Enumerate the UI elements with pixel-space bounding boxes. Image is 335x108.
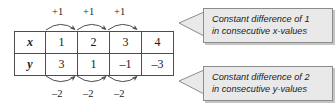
cell-y-1: 3 [46,54,78,76]
cell-x-2: 2 [78,32,110,54]
callout-top-line2: in consecutive x-values [212,25,325,37]
top-diff-label-3: +1 [114,6,125,17]
bottom-diff-label-3: –2 [114,88,125,99]
callout-bottom: Constant difference of 2 in consecutive … [203,66,333,101]
cell-x-3: 3 [110,32,142,54]
row-label-x: x [15,32,46,54]
value-table: x 1 2 3 4 y 3 1 –1 –3 [14,31,174,76]
callout-top-pointer-icon [178,10,206,40]
callout-top: Constant difference of 1 in consecutive … [203,8,333,43]
row-label-y: y [15,54,46,76]
top-diff-label-2: +1 [83,6,94,17]
cell-y-3: –1 [110,54,142,76]
bottom-arrow-3 [108,76,137,82]
callout-top-line1: Constant difference of 1 [212,13,325,25]
cell-x-4: 4 [142,32,174,54]
callout-bottom-line1: Constant difference of 2 [212,71,325,83]
table-row-x: x 1 2 3 4 [15,32,174,54]
cell-x-1: 1 [46,32,78,54]
bottom-arrow-1 [46,76,75,82]
bottom-arrow-2 [77,76,106,82]
callout-bottom-pointer-icon [178,68,206,98]
top-arrow-3 [108,24,137,30]
cell-y-2: 1 [78,54,110,76]
bottom-diff-label-1: –2 [52,88,63,99]
bottom-diff-label-2: –2 [83,88,94,99]
cell-y-4: –3 [142,54,174,76]
figure-canvas: +1 +1 +1 –2 –2 –2 x 1 2 3 4 y 3 1 –1 –3 … [0,0,335,108]
top-arrow-2 [77,24,106,30]
top-diff-label-1: +1 [52,6,63,17]
callout-bottom-line2: in consecutive y-values [212,83,325,95]
table-row-y: y 3 1 –1 –3 [15,54,174,76]
top-arrow-1 [46,24,75,30]
